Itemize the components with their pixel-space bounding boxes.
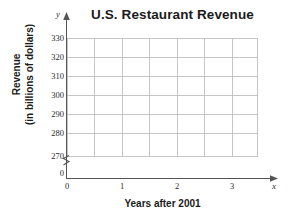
y-axis-symbol: y	[56, 9, 60, 19]
x-tick-0: 0	[57, 181, 77, 191]
y-tick-310: 310	[38, 72, 64, 81]
y-axis-title: Revenue (in billions of dollars)	[11, 0, 36, 150]
y-tick-300: 300	[38, 91, 64, 100]
restaurant-revenue-chart: U.S. Restaurant Revenue	[0, 0, 289, 222]
y-tick-330: 330	[38, 34, 64, 43]
x-axis-title: Years after 2001	[67, 198, 258, 209]
y-axis-title-line1: Revenue	[11, 54, 22, 96]
y-tick-origin: 0	[38, 169, 64, 178]
y-tick-280: 280	[38, 129, 64, 138]
chart-title: U.S. Restaurant Revenue	[80, 7, 265, 22]
x-tick-2: 2	[167, 181, 187, 191]
x-tick-1: 1	[112, 181, 132, 191]
x-tick-3: 3	[222, 181, 242, 191]
y-tick-270: 270	[38, 152, 64, 161]
plot-area	[67, 38, 258, 157]
y-axis-title-line2: (in billions of dollars)	[23, 0, 36, 150]
gridlines	[67, 38, 258, 157]
y-tick-290: 290	[38, 110, 64, 119]
x-axis-symbol: x	[272, 181, 276, 191]
y-tick-320: 320	[38, 53, 64, 62]
